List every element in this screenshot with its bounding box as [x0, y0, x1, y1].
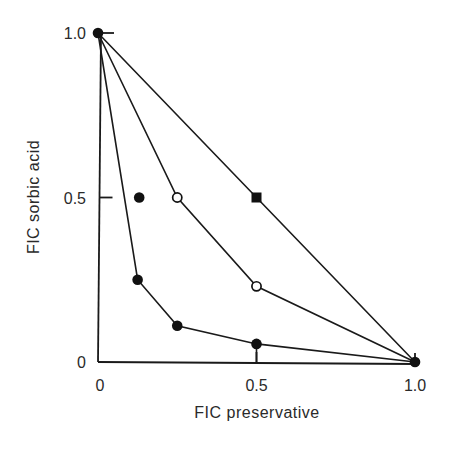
endpoint-x — [410, 357, 421, 368]
additive-line-point — [252, 193, 262, 203]
y-tick-label: 0 — [77, 354, 86, 371]
filled-circle-series-point — [132, 274, 143, 285]
isobologram-chart: 00.51.000.51.0 FIC preservative FIC sorb… — [0, 0, 452, 453]
filled-circle-series-point — [251, 339, 262, 350]
filled-circle-series-point — [172, 321, 183, 332]
y-tick-label: 0.5 — [64, 190, 86, 207]
tick-labels: 00.51.000.51.0 — [64, 25, 426, 394]
y-axis-title: FIC sorbic acid — [25, 140, 42, 254]
x-tick-label: 0 — [96, 377, 105, 394]
x-axis-title: FIC preservative — [194, 404, 319, 421]
open-circle-series-point — [173, 193, 182, 202]
x-tick-label: 1.0 — [404, 377, 426, 394]
x-tick-label: 0.5 — [245, 377, 267, 394]
y-tick-label: 1.0 — [64, 25, 86, 42]
endpoint-y — [93, 28, 104, 39]
isolated-filled-point — [134, 192, 145, 203]
open-circle-series-point — [252, 282, 261, 291]
